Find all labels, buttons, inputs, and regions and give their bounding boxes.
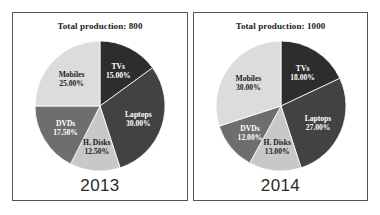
pie-slice-value-tvs: 15.00%: [106, 71, 131, 80]
pie-slice-name-tvs: TVs: [295, 64, 309, 73]
pie-slice-value-laptops: 27.00%: [305, 123, 330, 132]
pie-slice-name-laptops: Laptops: [125, 110, 152, 119]
panel-title-2013: Total production: 800: [13, 21, 187, 31]
pie-slice-value-dvds: 12.00%: [237, 133, 262, 142]
pie-slice-name-tvs: TVs: [112, 62, 126, 71]
chart-panel-2013: Total production: 800 TVs15.00%Laptops30…: [12, 12, 188, 201]
pie-slice-name-dvds: DVDs: [56, 119, 75, 128]
pie-slice-name-mobiles: Mobiles: [59, 70, 85, 79]
pie-slice-value-laptops: 30.00%: [126, 119, 151, 128]
year-label-2014: 2014: [194, 176, 367, 196]
year-label-2013: 2013: [13, 176, 187, 196]
pie-chart-figure: Total production: 800 TVs15.00%Laptops30…: [0, 0, 380, 215]
pie-slice-value-mobiles: 30.00%: [236, 83, 261, 92]
pie-slice-value-h-disks: 13.00%: [264, 147, 289, 156]
pie-slice-value-mobiles: 25.00%: [59, 79, 84, 88]
pie-slice-name-laptops: Laptops: [304, 114, 331, 123]
pie-slice-name-h-disks: H. Disks: [263, 138, 290, 147]
pie-slice-name-h-disks: H. Disks: [83, 138, 110, 147]
pie-slice-value-h-disks: 12.50%: [84, 147, 109, 156]
pie-slice-name-mobiles: Mobiles: [235, 74, 261, 83]
pie-slice-value-tvs: 18.00%: [290, 73, 315, 82]
pie-slice-value-dvds: 17.50%: [53, 128, 78, 137]
panel-title-2014: Total production: 1000: [194, 21, 367, 31]
chart-panel-2014: Total production: 1000 TVs18.00%Laptops2…: [193, 12, 368, 201]
pie-slice-name-dvds: DVDs: [240, 124, 259, 133]
pie-chart-2013: TVs15.00%Laptops30.00%H. Disks12.50%DVDs…: [13, 39, 187, 173]
pie-chart-2014: TVs18.00%Laptops27.00%H. Disks13.00%DVDs…: [194, 39, 367, 173]
